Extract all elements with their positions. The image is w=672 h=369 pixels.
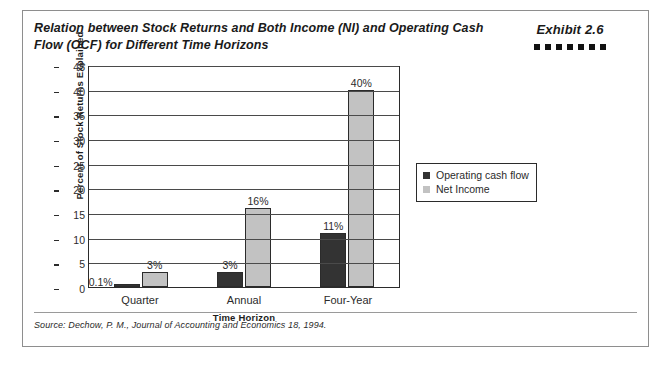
y-axis-tick-label: 5 (59, 258, 85, 270)
legend-label-net-income: Net Income (436, 182, 490, 196)
bar-net-income: 16% (245, 208, 271, 287)
y-axis-tick-mark (54, 67, 59, 68)
x-axis-tick-label: Four-Year (296, 294, 400, 306)
gridline (89, 239, 399, 240)
y-axis-tick-mark (54, 141, 59, 142)
gridline (89, 91, 399, 92)
bar-net-income: 3% (142, 272, 168, 287)
y-axis-tick-label: 40 (59, 86, 85, 98)
legend-item-net-income: Net Income (423, 182, 529, 196)
bar-group: 3%16% (192, 67, 295, 287)
exhibit-title: Relation between Stock Returns and Both … (34, 20, 489, 54)
bar-group: 11%40% (296, 67, 399, 287)
gridline (89, 140, 399, 141)
y-axis-tick-label: 30 (59, 135, 85, 147)
plot-area: 0.1%3%3%16%11%40% 051015202530354045 (88, 66, 400, 288)
chart-legend: Operating cash flow Net Income (416, 163, 537, 202)
exhibit-dot-row (510, 44, 630, 50)
gridline (89, 189, 399, 190)
y-axis-tick-mark (54, 289, 59, 290)
x-axis-tick-label: Annual (192, 294, 296, 306)
bar-value-label: 16% (247, 195, 268, 207)
y-axis-tick-mark (54, 240, 59, 241)
bar-net-income: 40% (348, 90, 374, 287)
source-note: Source: Dechow, P. M., Journal of Accoun… (34, 320, 326, 330)
exhibit-dot-icon (545, 44, 551, 50)
x-axis-tick-labels: QuarterAnnualFour-Year (88, 294, 400, 306)
bar-value-label: 11% (323, 220, 343, 232)
y-axis-tick-mark (54, 215, 59, 216)
x-axis-tick-label: Quarter (88, 294, 192, 306)
y-axis-tick-label: 15 (59, 209, 85, 221)
bar-operating-cash-flow: 11% (320, 233, 346, 287)
y-axis-tick-mark (54, 190, 59, 191)
gridline (89, 263, 399, 264)
legend-swatch-icon-operating-cash-flow (423, 172, 430, 179)
bar-value-label: 3% (222, 259, 237, 271)
y-axis-tick-mark (54, 166, 59, 167)
bar-value-label: 0.1% (89, 276, 113, 288)
y-axis-tick-label: 45 (59, 61, 85, 73)
bar-value-label: 40% (351, 77, 372, 89)
exhibit-figure: Relation between Stock Returns and Both … (0, 0, 672, 369)
exhibit-dot-icon (534, 44, 540, 50)
exhibit-dot-icon (578, 44, 584, 50)
bar-value-label: 3% (147, 259, 162, 271)
y-axis-tick-label: 25 (59, 160, 85, 172)
bar-groups: 0.1%3%3%16%11%40% (89, 67, 399, 287)
bar-group: 0.1%3% (89, 67, 192, 287)
chart-area: Percent of Stock Returns Explained 0.1%3… (40, 62, 630, 302)
exhibit-number: Exhibit 2.6 (510, 22, 630, 37)
gridline (89, 66, 399, 67)
y-axis-tick-mark (54, 264, 59, 265)
legend-swatch-icon-net-income (423, 186, 430, 193)
exhibit-dot-icon (589, 44, 595, 50)
exhibit-number-block: Exhibit 2.6 (510, 22, 630, 50)
y-axis-tick-label: 10 (59, 234, 85, 246)
gridline (89, 214, 399, 215)
gridline (89, 165, 399, 166)
exhibit-dot-icon (567, 44, 573, 50)
legend-item-operating-cash-flow: Operating cash flow (423, 168, 529, 182)
source-divider (34, 312, 637, 313)
y-axis-tick-label: 35 (59, 110, 85, 122)
legend-label-operating-cash-flow: Operating cash flow (436, 168, 529, 182)
y-axis-tick-mark (54, 92, 59, 93)
gridline (89, 115, 399, 116)
bar-operating-cash-flow: 3% (217, 272, 243, 287)
exhibit-dot-icon (600, 44, 606, 50)
y-axis-tick-mark (54, 116, 59, 117)
exhibit-dot-icon (556, 44, 562, 50)
y-axis-tick-label: 0 (59, 283, 85, 295)
y-axis-tick-label: 20 (59, 184, 85, 196)
bar-operating-cash-flow: 0.1% (114, 284, 140, 287)
